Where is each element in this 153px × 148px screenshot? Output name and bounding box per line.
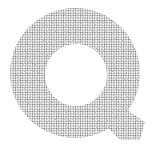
letter-q-graphic — [0, 0, 153, 148]
q-shape — [0, 0, 153, 148]
stippled-letter-q — [0, 0, 153, 148]
